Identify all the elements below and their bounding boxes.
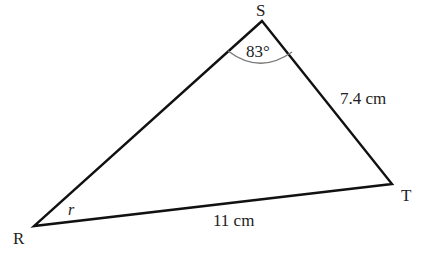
angle-r-label: r — [68, 201, 75, 218]
vertex-label-r: R — [13, 229, 25, 248]
vertex-label-t: T — [401, 186, 412, 205]
triangle-diagram: S R T 83° r 7.4 cm 11 cm — [0, 0, 426, 257]
angle-s-label: 83° — [246, 42, 270, 61]
side-rt-label: 11 cm — [213, 211, 254, 230]
vertex-label-s: S — [256, 1, 265, 20]
side-st-label: 7.4 cm — [340, 89, 386, 108]
triangle-rst — [34, 21, 392, 226]
